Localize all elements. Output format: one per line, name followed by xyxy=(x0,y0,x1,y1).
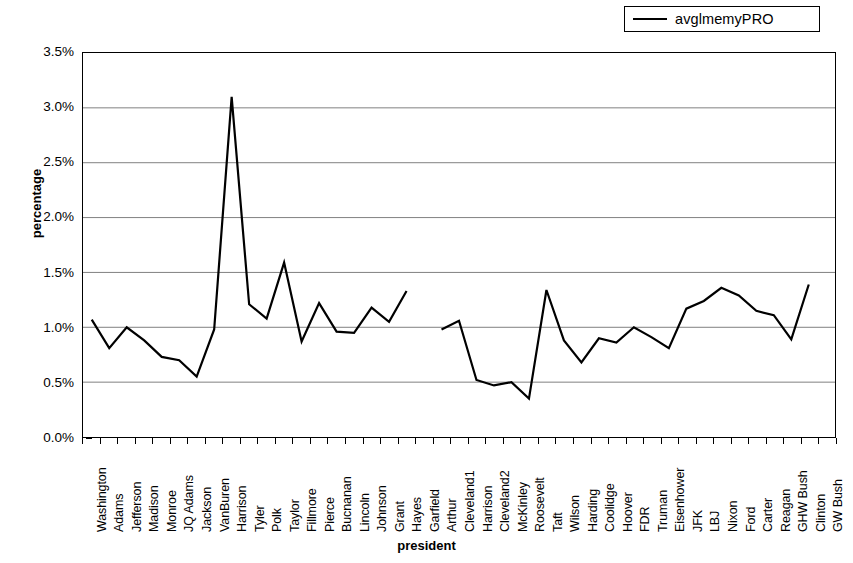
x-tick-mark xyxy=(117,438,118,444)
y-tick-label: 3.0% xyxy=(14,100,74,114)
x-tick-mark xyxy=(608,438,609,444)
x-tick-mark xyxy=(538,438,539,444)
y-tick-label: 1.0% xyxy=(14,321,74,335)
x-tick-label: Harrison xyxy=(236,486,249,532)
x-tick-label: GW Bush xyxy=(832,479,845,532)
x-tick-label: Garfield xyxy=(429,489,442,532)
x-tick-label: Washington xyxy=(96,467,109,532)
x-tick-mark xyxy=(450,438,451,444)
x-axis-title: president xyxy=(0,538,853,553)
y-tick-mark xyxy=(86,438,92,439)
x-tick-label: Hoover xyxy=(622,492,635,532)
x-tick-mark xyxy=(292,438,293,444)
x-tick-mark xyxy=(468,438,469,444)
x-tick-label: Polk xyxy=(271,508,284,532)
x-tick-mark xyxy=(205,438,206,444)
y-tick-label: 0.5% xyxy=(14,376,74,390)
x-tick-label: Adams xyxy=(113,494,126,532)
x-tick-label: McKinley xyxy=(517,482,530,532)
x-tick-label: Jefferson xyxy=(131,482,144,532)
x-tick-mark xyxy=(555,438,556,444)
x-tick-mark xyxy=(485,438,486,444)
x-tick-label: JQ Adams xyxy=(183,475,196,532)
legend-label-avglmemypro: avglmemyPRO xyxy=(675,12,774,27)
x-tick-label: Cleveland1 xyxy=(464,470,477,532)
x-tick-label: Tyler xyxy=(254,505,267,532)
x-tick-mark xyxy=(643,438,644,444)
x-tick-label: JFK xyxy=(692,510,705,532)
x-tick-label: Reagan xyxy=(780,489,793,532)
x-tick-label: Bucnanan xyxy=(341,477,354,533)
x-tick-label: LBJ xyxy=(709,511,722,532)
x-tick-label: FDR xyxy=(639,507,652,532)
x-tick-mark xyxy=(591,438,592,444)
x-tick-mark xyxy=(433,438,434,444)
y-tick-label: 3.5% xyxy=(14,45,74,59)
x-tick-label: Arthur xyxy=(446,499,459,532)
x-tick-mark xyxy=(661,438,662,444)
x-tick-label: Cleveland2 xyxy=(499,470,512,532)
x-tick-label: Madison xyxy=(148,485,161,532)
x-tick-mark xyxy=(363,438,364,444)
x-tick-mark xyxy=(818,438,819,444)
x-tick-mark xyxy=(626,438,627,444)
x-tick-label: Harrison xyxy=(482,486,495,532)
y-tick-label: 1.5% xyxy=(14,266,74,280)
x-tick-label: Truman xyxy=(657,490,670,532)
legend-line-swatch xyxy=(633,18,667,20)
x-tick-mark xyxy=(327,438,328,444)
y-tick-label: 0.0% xyxy=(14,431,74,445)
x-tick-mark xyxy=(573,438,574,444)
x-tick-label: Harding xyxy=(587,489,600,532)
x-tick-mark xyxy=(187,438,188,444)
x-tick-mark xyxy=(696,438,697,444)
x-tick-label: GHW Bush xyxy=(797,470,810,532)
x-tick-label: Grant xyxy=(394,501,407,532)
line-chart: avglmemyPRO percentage 0.0%0.5%1.0%1.5%2… xyxy=(0,0,853,563)
x-tick-mark xyxy=(135,438,136,444)
gridlines xyxy=(83,108,835,382)
x-tick-label: Lincoln xyxy=(359,493,372,532)
plot-area xyxy=(82,52,836,438)
x-tick-label: Fillmore xyxy=(306,488,319,532)
x-axis-labels: WashingtonAdamsJeffersonMadisonMonroeJQ … xyxy=(0,446,853,538)
x-tick-label: Johnson xyxy=(376,485,389,532)
x-tick-label: Taft xyxy=(552,512,565,532)
x-tick-label: Wilson xyxy=(569,495,582,532)
x-tick-mark xyxy=(275,438,276,444)
data-line-segment xyxy=(92,97,407,377)
x-tick-mark xyxy=(713,438,714,444)
x-tick-label: Clinton xyxy=(815,494,828,532)
x-tick-mark xyxy=(100,438,101,444)
x-tick-mark xyxy=(398,438,399,444)
x-tick-mark xyxy=(801,438,802,444)
x-tick-mark xyxy=(310,438,311,444)
x-tick-label: Coolidge xyxy=(604,483,617,532)
x-tick-mark xyxy=(380,438,381,444)
x-tick-mark xyxy=(783,438,784,444)
x-tick-mark xyxy=(748,438,749,444)
x-tick-mark xyxy=(257,438,258,444)
data-line-segment xyxy=(442,284,809,398)
x-tick-label: Ford xyxy=(745,507,758,532)
x-tick-label: Nixon xyxy=(727,501,740,532)
x-tick-mark xyxy=(836,438,837,444)
x-tick-label: Pierce xyxy=(324,497,337,532)
x-tick-label: VanBuren xyxy=(219,478,232,532)
x-tick-mark xyxy=(345,438,346,444)
x-tick-label: Hayes xyxy=(411,497,424,532)
x-tick-mark xyxy=(170,438,171,444)
x-tick-mark xyxy=(678,438,679,444)
x-tick-label: Eisenhower xyxy=(674,468,687,532)
x-tick-mark xyxy=(152,438,153,444)
x-tick-mark xyxy=(503,438,504,444)
plot-svg xyxy=(83,53,835,437)
x-tick-mark xyxy=(766,438,767,444)
x-tick-mark xyxy=(520,438,521,444)
y-tick-label: 2.0% xyxy=(14,210,74,224)
x-tick-label: Taylor xyxy=(289,499,302,532)
x-tick-mark xyxy=(731,438,732,444)
x-tick-label: Roosevelt xyxy=(534,477,547,532)
x-tick-label: Monroe xyxy=(166,490,179,532)
x-tick-mark xyxy=(415,438,416,444)
